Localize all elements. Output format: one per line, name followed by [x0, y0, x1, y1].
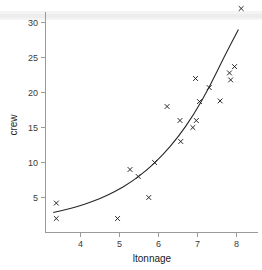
- y-tick-label: 15: [28, 123, 38, 133]
- x-tick-label: 6: [156, 239, 161, 249]
- x-tick-label: 7: [195, 239, 200, 249]
- x-tick-label: 5: [117, 239, 122, 249]
- y-tick-label: 20: [28, 88, 38, 98]
- y-tick-label: 25: [28, 53, 38, 63]
- x-tick-label: 8: [234, 239, 239, 249]
- top-banner-band: [0, 14, 262, 18]
- x-tick-label: 4: [78, 239, 83, 249]
- y-axis-title: crew: [8, 114, 19, 136]
- figure-background: [0, 0, 262, 270]
- y-tick-label: 10: [28, 158, 38, 168]
- y-tick-label: 30: [28, 18, 38, 28]
- x-axis-title: ltonnage: [133, 253, 172, 264]
- scatter-plot-figure: 5 10 15 20 25 30 4 5 6 7 8 ltonnage crew: [0, 0, 262, 270]
- y-tick-label: 5: [33, 193, 38, 203]
